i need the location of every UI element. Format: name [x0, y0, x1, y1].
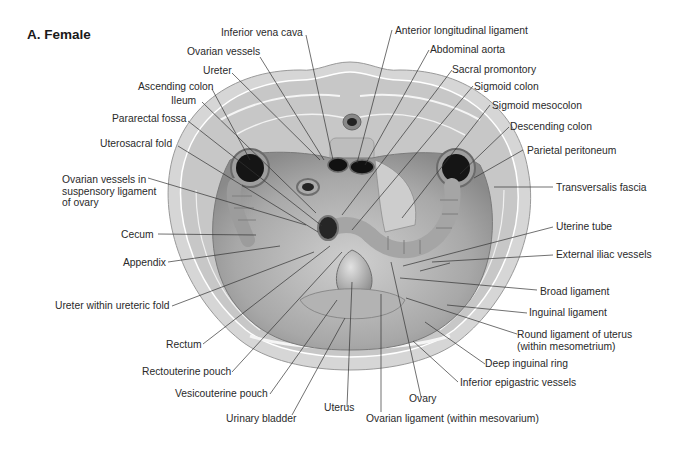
label-anterior-longitudinal-ligament: Anterior longitudinal ligament [395, 25, 528, 37]
figure-title: A. Female [27, 27, 91, 42]
label-round-ligament-line2: (within mesometrium) [517, 341, 632, 353]
label-ovarian-ligament: Ovarian ligament (within mesovarium) [366, 413, 539, 425]
label-uterus: Uterus [324, 402, 354, 414]
label-ovarian-vessels: Ovarian vessels [187, 46, 260, 58]
label-deep-inguinal-ring: Deep inguinal ring [485, 358, 568, 370]
anatomy-figure: A. Female Inferior vena cava Ovarian ves… [0, 0, 683, 453]
label-cecum: Cecum [121, 229, 154, 241]
label-ovarian-vessels-suspensory-line1: Ovarian vessels in [62, 174, 156, 186]
ileum-illustration [297, 179, 319, 195]
label-pararectal-fossa: Pararectal fossa [112, 113, 186, 125]
label-inguinal-ligament: Inguinal ligament [529, 307, 607, 319]
label-external-iliac-vessels: External iliac vessels [556, 249, 652, 261]
label-sacral-promontory: Sacral promontory [452, 64, 536, 76]
label-ileum: Ileum [171, 95, 196, 107]
label-ovary: Ovary [409, 393, 436, 405]
label-parietal-peritoneum: Parietal peritoneum [527, 145, 616, 157]
label-sigmoid-colon: Sigmoid colon [474, 81, 539, 93]
label-broad-ligament: Broad ligament [540, 286, 609, 298]
label-appendix: Appendix [123, 257, 166, 269]
label-ovarian-vessels-suspensory: Ovarian vessels in suspensory ligament o… [62, 174, 156, 209]
label-uterine-tube: Uterine tube [556, 221, 612, 233]
label-uterosacral-fold: Uterosacral fold [100, 138, 172, 150]
label-vesicouterine-pouch: Vesicouterine pouch [175, 388, 268, 400]
label-rectum: Rectum [166, 339, 201, 351]
label-transversalis-fascia: Transversalis fascia [556, 182, 647, 194]
label-round-ligament: Round ligament of uterus (within mesomet… [517, 329, 632, 352]
label-descending-colon: Descending colon [510, 121, 592, 133]
label-abdominal-aorta: Abdominal aorta [430, 44, 505, 56]
label-ovarian-vessels-suspensory-line2: suspensory ligament [62, 186, 156, 198]
label-ureter-within-ureteric-fold: Ureter within ureteric fold [55, 300, 169, 312]
rectum-illustration [318, 216, 338, 240]
label-round-ligament-line1: Round ligament of uterus [517, 329, 632, 341]
label-inferior-vena-cava: Inferior vena cava [221, 27, 303, 39]
label-ascending-colon: Ascending colon [138, 81, 214, 93]
label-rectouterine-pouch: Rectouterine pouch [142, 366, 231, 378]
label-urinary-bladder: Urinary bladder [226, 413, 296, 425]
label-sigmoid-mesocolon: Sigmoid mesocolon [492, 100, 582, 112]
label-ureter: Ureter [203, 65, 232, 77]
label-ovarian-vessels-suspensory-line3: of ovary [62, 197, 156, 209]
label-inferior-epigastric-vessels: Inferior epigastric vessels [460, 377, 576, 389]
